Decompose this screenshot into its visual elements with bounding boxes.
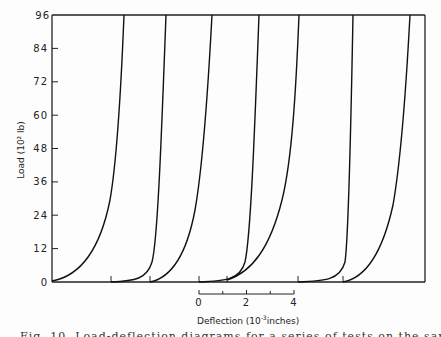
curve-7 [343,15,410,282]
y-axis-tick-labels: 96 84 72 60 48 36 24 12 0 [33,10,50,288]
x-tick-label: 0 [195,297,202,308]
y-tick-label: 24 [33,210,48,221]
curve-6 [298,15,353,282]
y-tick-label: 84 [33,43,48,54]
curve-5 [227,15,299,280]
x-axis-label-prefix: Deflection (10 [197,316,261,326]
figure-caption: Fig. 10. Load-deflection diagrams for a … [20,330,440,337]
curve-2 [111,15,166,282]
y-tick-label: 12 [33,243,48,254]
x-axis-label-suffix: inches) [267,316,300,326]
y-axis-ticks [52,48,58,248]
x-scale-bar [199,290,294,294]
x-scale-labels: 0 2 4 [195,297,297,308]
plot-frame [52,15,425,282]
load-deflection-curves [52,15,410,282]
y-tick-label: 96 [35,10,50,21]
curve-1 [52,15,124,281]
x-axis-label: Deflection (10-3inches) [197,314,299,326]
curve-3 [150,15,212,282]
y-tick-label: 0 [41,277,48,288]
y-tick-label: 36 [33,176,48,187]
y-tick-label: 48 [33,143,48,154]
x-tick-label: 4 [290,297,297,308]
y-axis-label: Load (10² lb) [16,121,26,179]
curve-4 [199,15,259,282]
x-tick-label: 2 [243,297,250,308]
load-deflection-chart: 96 84 72 60 48 36 24 12 0 Load (10² lb) [0,0,441,337]
y-tick-label: 60 [33,110,48,121]
y-tick-label: 72 [33,76,48,87]
